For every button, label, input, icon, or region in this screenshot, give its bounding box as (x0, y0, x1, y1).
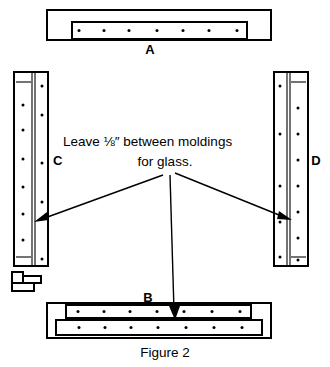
detail-tongue (23, 276, 41, 283)
part-label-b: B (143, 290, 152, 305)
part-label-d: D (311, 153, 320, 168)
molding-cross-section-detail (12, 272, 41, 291)
part-label-a: A (145, 42, 155, 57)
part-c-group: C (14, 72, 63, 266)
callout-annotation: Leave ⅛″ between moldings for glass. (63, 134, 232, 169)
part-a-group: A (47, 10, 271, 57)
part-b-group: B (47, 290, 271, 338)
part-a-inner-molding (72, 22, 247, 39)
detail-square (12, 272, 23, 283)
part-d-group: D (274, 72, 321, 266)
figure-2-diagram: A (0, 0, 330, 367)
callout-line-1: Leave ⅛″ between moldings (63, 134, 232, 149)
part-label-c: C (53, 153, 63, 168)
leader-to-part-c (34, 175, 163, 222)
part-c-outline (14, 72, 48, 266)
figure-caption: Figure 2 (140, 345, 190, 360)
part-d-outline (274, 72, 308, 266)
detail-base (12, 283, 34, 291)
frame-assembly-drawing: A (0, 0, 330, 367)
callout-line-2: for glass. (138, 154, 193, 169)
leader-to-part-b (169, 175, 180, 320)
